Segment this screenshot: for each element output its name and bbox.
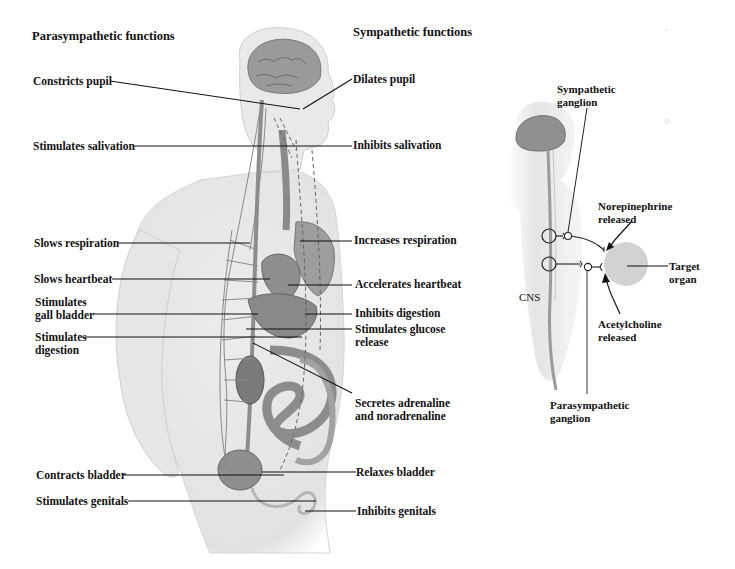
label-inhibits-genitals: Inhibits genitals bbox=[357, 505, 436, 518]
label-contracts-bladder: Contracts bladder bbox=[36, 469, 126, 482]
label-line1: Stimulates bbox=[35, 296, 94, 309]
label-increases-respiration: Increases respiration bbox=[354, 234, 457, 247]
label-line2: released bbox=[598, 213, 672, 226]
autonomic-nervous-system-diagram: Parasympathetic functions Sympathetic fu… bbox=[0, 0, 735, 569]
label-acetylcholine-released: Acetylcholine released bbox=[598, 318, 662, 344]
label-slows-heartbeat: Slows heartbeat bbox=[34, 273, 112, 286]
parasympathetic-header: Parasympathetic functions bbox=[32, 29, 175, 44]
label-line1: Stimulates glucose bbox=[355, 323, 445, 336]
label-line2: ganglion bbox=[557, 96, 616, 109]
label-line1: Stimulates bbox=[35, 331, 87, 344]
label-cns: CNS bbox=[519, 291, 540, 304]
label-line2: released bbox=[598, 331, 662, 344]
label-stimulates-digestion: Stimulates digestion bbox=[35, 331, 87, 357]
label-line1: Acetylcholine bbox=[598, 318, 662, 331]
label-relaxes-bladder: Relaxes bladder bbox=[356, 466, 435, 479]
main-body bbox=[116, 28, 344, 553]
label-line2: ganglion bbox=[550, 412, 629, 425]
label-secretes-adrenaline: Secretes adrenaline and noradrenaline bbox=[355, 397, 450, 423]
label-stimulates-genitals: Stimulates genitals bbox=[36, 495, 128, 508]
label-constricts-pupil: Constricts pupil bbox=[33, 75, 112, 88]
label-line1: Sympathetic bbox=[557, 83, 616, 96]
label-parasympathetic-ganglion: Parasympathetic ganglion bbox=[550, 399, 629, 425]
label-inhibits-salivation: Inhibits salivation bbox=[353, 139, 442, 152]
label-line2: digestion bbox=[35, 344, 87, 357]
label-norepinephrine-released: Norepinephrine released bbox=[598, 200, 672, 226]
sympathetic-header: Sympathetic functions bbox=[353, 25, 472, 40]
label-line1: Secretes adrenaline bbox=[355, 397, 450, 410]
label-target-organ: Target organ bbox=[669, 260, 700, 286]
label-line2: and noradrenaline bbox=[355, 410, 450, 423]
label-inhibits-digestion: Inhibits digestion bbox=[355, 307, 440, 320]
label-line2: release bbox=[355, 336, 445, 349]
label-dilates-pupil: Dilates pupil bbox=[353, 73, 415, 86]
label-line1: Target bbox=[669, 260, 700, 273]
label-stimulates-salivation: Stimulates salivation bbox=[33, 140, 135, 153]
label-line1: Parasympathetic bbox=[550, 399, 629, 412]
label-accelerates-heartbeat: Accelerates heartbeat bbox=[355, 278, 461, 291]
label-line1: Norepinephrine bbox=[598, 200, 672, 213]
label-line2: gall bladder bbox=[35, 309, 94, 322]
label-line2: organ bbox=[669, 273, 700, 286]
label-stimulates-gall-bladder: Stimulates gall bladder bbox=[35, 296, 94, 322]
label-sympathetic-ganglion: Sympathetic ganglion bbox=[557, 83, 616, 109]
label-stimulates-glucose-release: Stimulates glucose release bbox=[355, 323, 445, 349]
label-slows-respiration: Slows respiration bbox=[34, 237, 119, 250]
